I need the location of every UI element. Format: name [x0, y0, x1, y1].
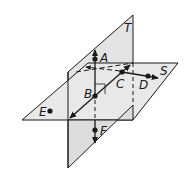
point-b [92, 93, 97, 98]
point-a [92, 56, 97, 61]
geometry-diagram: T S A B C D E F [0, 0, 186, 187]
point-a-label: A [99, 51, 108, 65]
point-d-label: D [139, 78, 148, 92]
point-e-label: E [39, 105, 47, 119]
point-f [92, 127, 97, 132]
point-b-label: B [84, 87, 92, 101]
plane-s-label: S [160, 64, 168, 78]
point-e [47, 108, 52, 113]
point-c [119, 69, 124, 74]
point-c-label: C [116, 77, 125, 91]
point-f-label: F [100, 124, 108, 138]
